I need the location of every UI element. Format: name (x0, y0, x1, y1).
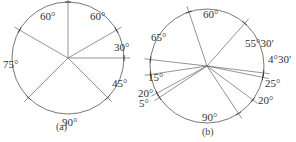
angle-label: 60° (203, 8, 218, 20)
angle-label: 55°30′ (245, 37, 274, 49)
angle-label: 30° (114, 41, 129, 53)
angle-label: 45° (112, 77, 127, 89)
arrow-tick-icon (251, 97, 255, 102)
figure-caption: (b) (202, 126, 214, 138)
division-line (14, 27, 68, 58)
division-line (144, 59, 207, 66)
angle-label: 5° (139, 97, 149, 109)
arrow-tick-icon (236, 112, 241, 115)
arrow-tick-icon (18, 27, 21, 32)
angle-label: 60° (90, 10, 105, 22)
arrow-tick-icon (155, 91, 158, 96)
division-line (24, 58, 68, 102)
diagram-b: 60°65°55°30′4°30′15°25°20°20°5°90°(b) (138, 6, 291, 138)
arrow-tick-icon (150, 57, 151, 63)
arrow-tick-icon (262, 74, 263, 80)
division-line (68, 58, 112, 102)
angle-label: 15° (148, 71, 163, 83)
angle-label: 20° (258, 94, 273, 106)
division-line (207, 19, 249, 66)
angle-label: 4°30′ (268, 53, 291, 65)
protractor-diagrams: 60°60°30°45°90°75°(a) 60°65°55°30′4°30′1… (0, 0, 296, 142)
angle-label: 60° (40, 10, 55, 22)
angle-label: 25° (265, 77, 280, 89)
angle-label: 65° (151, 31, 166, 43)
angle-label: 75° (3, 58, 18, 70)
diagram-a: 60°60°30°45°90°75°(a) (3, 0, 130, 133)
angle-label: 90° (202, 111, 217, 123)
figure-caption: (a) (56, 121, 67, 133)
arrow-tick-icon (115, 27, 118, 32)
